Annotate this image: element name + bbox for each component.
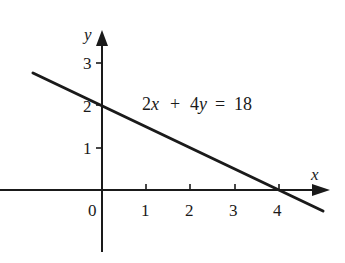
equation-term-4y: 4y bbox=[190, 94, 207, 114]
y-tick-label-3: 3 bbox=[83, 54, 92, 73]
x-tick-label-4: 4 bbox=[273, 201, 282, 220]
x-tick-label-2: 2 bbox=[185, 201, 194, 220]
equation-term-2x: 2x bbox=[142, 94, 159, 114]
equation-plus: + bbox=[170, 94, 180, 114]
origin-label: 0 bbox=[88, 201, 97, 220]
equation-rhs: 18 bbox=[234, 94, 252, 114]
x-tick-label-3: 3 bbox=[229, 201, 238, 220]
y-tick-label-2: 2 bbox=[83, 97, 92, 116]
x-tick-label-1: 1 bbox=[141, 201, 150, 220]
y-tick-label-1: 1 bbox=[83, 139, 92, 158]
equation-2x: 2x bbox=[142, 94, 159, 114]
equation-annotation: 2x + 4y = 18 bbox=[142, 94, 252, 114]
y-axis-arrow-icon bbox=[96, 30, 108, 46]
coordinate-plane: 0 1 2 3 4 1 2 3 y x 2x + 4y = 18 bbox=[0, 0, 345, 263]
y-axis-label: y bbox=[82, 25, 92, 44]
x-axis-label: x bbox=[310, 165, 319, 184]
equation-equals: = bbox=[215, 94, 225, 114]
x-axis-arrow-icon bbox=[312, 184, 330, 196]
